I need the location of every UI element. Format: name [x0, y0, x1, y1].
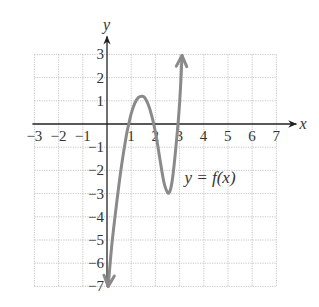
y-axis-label: y: [101, 16, 111, 34]
y-tick-label: −4: [88, 209, 104, 225]
y-tick-label: −6: [88, 255, 104, 271]
y-tick-label: 1: [97, 93, 105, 109]
function-graph: −3−2−11234567321−1−2−3−4−5−6−7 x y y = f…: [0, 0, 319, 307]
x-tick-label: −3: [26, 128, 42, 144]
y-tick-label: −7: [88, 278, 104, 294]
y-tick-label: −3: [88, 186, 104, 202]
grid: [34, 54, 276, 286]
annotation-lhs: y =: [182, 168, 212, 187]
function-annotation: y = f(x): [182, 168, 235, 187]
axes: [32, 36, 296, 286]
y-tick-label: 2: [97, 70, 105, 86]
x-tick-label: 5: [224, 128, 232, 144]
y-tick-label: −5: [88, 232, 104, 248]
x-tick-label: 6: [248, 128, 256, 144]
x-tick-label: 7: [272, 128, 280, 144]
function-curve: [108, 56, 182, 287]
x-tick-label: 4: [200, 128, 208, 144]
x-tick-label: −2: [51, 128, 67, 144]
annotation-function: f(x): [212, 168, 236, 187]
x-axis-label: x: [298, 115, 306, 132]
tick-labels: −3−2−11234567321−1−2−3−4−5−6−7: [26, 46, 280, 294]
y-tick-label: −2: [88, 162, 104, 178]
y-tick-label: −1: [88, 139, 104, 155]
y-tick-label: 3: [97, 46, 105, 62]
series-layer: [104, 56, 187, 287]
